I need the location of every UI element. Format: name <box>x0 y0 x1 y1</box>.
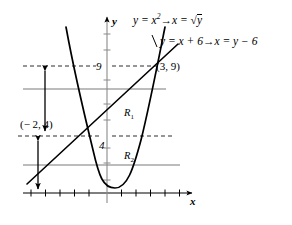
point-label-3-9: (3, 9) <box>156 61 180 72</box>
math-figure: y x y = x2→x = √y y = x + 6→x = y − 6 (3… <box>0 0 292 225</box>
parabola-eq-arrow: → <box>160 14 172 26</box>
parabola-eq-lhs: y = x <box>133 14 157 26</box>
region-R1-sub: 1 <box>130 113 134 121</box>
y-tick-label-4: 4 <box>99 140 105 151</box>
line-equation-label: y = x + 6→x = y − 6 <box>160 36 257 48</box>
y-tick-label-9: 9 <box>96 61 102 72</box>
region-R2-sub: 2 <box>130 156 134 164</box>
parabola-curve <box>66 27 165 188</box>
label-leader-line <box>152 35 157 47</box>
parabola-equation-label: y = x2→x = √y <box>133 13 202 26</box>
region-label-R2: R2 <box>124 151 134 164</box>
region-label-R1: R1 <box>124 108 134 121</box>
figure-canvas <box>0 0 292 225</box>
point-label-neg2-4: (− 2, 4) <box>20 119 53 130</box>
y-axis-label: y <box>112 16 117 27</box>
parabola-eq-rhs: x = <box>172 14 191 26</box>
parabola-eq-radicand: y <box>197 14 202 27</box>
x-axis-label: x <box>190 196 196 207</box>
